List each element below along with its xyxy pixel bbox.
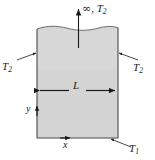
label-t2-left: T2 [2,61,12,72]
temperature-subscript: 2 [8,65,12,74]
label-axis-y: y [26,104,30,114]
comma-separator: , [91,2,94,14]
label-t2-right: T2 [133,62,143,73]
leader-line-bottom [111,139,131,147]
infinity-symbol: ∞ [82,2,91,15]
temperature-subscript: 1 [135,147,139,156]
temperature-subscript: 2 [103,7,107,16]
label-infinity-t2: ∞, T2 [82,3,107,14]
temperature-symbol: T [97,2,103,14]
figure-canvas: ∞, T2 T2 T2 L y x T1 [0,0,155,160]
leader-line-right [119,53,138,60]
leader-line-left [17,53,36,60]
label-t1-bottom: T1 [129,143,139,154]
label-axis-x: x [63,140,67,150]
label-width-L: L [73,80,79,91]
temperature-subscript: 2 [139,66,143,75]
